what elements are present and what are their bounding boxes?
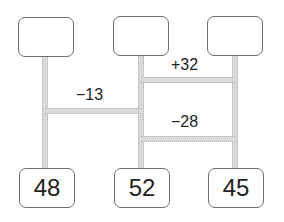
rung-minus-28: [141, 136, 235, 142]
result-box-2: 52: [114, 168, 170, 208]
ladder-line-3: [232, 55, 238, 170]
answer-box-2[interactable]: [113, 16, 169, 56]
answer-box-3[interactable]: [207, 16, 263, 56]
answer-box-1[interactable]: [18, 17, 74, 57]
rung-label-plus-32: +32: [171, 56, 198, 74]
result-box-3: 45: [208, 168, 264, 208]
rung-label-minus-13: −13: [76, 86, 103, 104]
rung-minus-13: [45, 108, 141, 114]
result-box-1: 48: [19, 168, 75, 208]
rung-plus-32: [141, 77, 235, 83]
rung-label-minus-28: −28: [171, 113, 198, 131]
